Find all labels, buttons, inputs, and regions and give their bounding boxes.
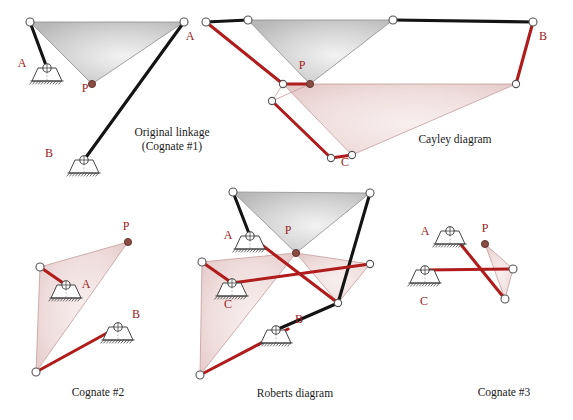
ground-hatch-line [84,173,87,176]
ground-hatch-line [53,81,56,84]
revolute-joint [501,295,509,303]
ground-hatch-line [87,173,90,176]
cognate-linkage-figure: APBABPCPABAPCBAPC Original linkage(Cogna… [0,0,573,420]
caption-line: Original linkage [134,126,209,139]
revolute-joint [334,299,341,306]
ground-hatch-line [72,173,75,176]
ground-hatch-line [44,81,47,84]
cognate-2-caption: Cognate #2 [72,386,125,399]
ground-hatch-line [433,244,436,247]
coupler-point [481,240,488,247]
caption-line: Cognate #2 [72,386,125,399]
roberts-diagram-caption: Roberts diagram [257,387,333,400]
ground-hatch-line [282,343,285,346]
ground-hatch-line [416,283,419,286]
ground-hatch-line [93,173,96,176]
ground-hatch-line [273,343,276,346]
ground-hatch-line [450,244,453,247]
ground-hatch-line [96,173,99,176]
ground-hatch-line [259,249,262,252]
cognate-2-label-P: P [123,219,130,233]
panel-cognate-3 [408,227,518,303]
revolute-joint [348,151,355,158]
ground-hatch-line [408,283,411,286]
coupler-point [306,80,313,87]
revolute-joint [327,154,334,161]
panel-cognate-2 [32,238,135,376]
cognate-2-label-B: B [132,307,140,321]
ground-hatch-line [247,249,250,252]
ground-hatch-line [30,81,33,84]
ground-hatch-line [124,340,127,343]
cayley-diagram-label-P: P [299,58,306,72]
ground-hatch-line [447,244,450,247]
ground-hatch-line [434,283,437,286]
ground-hatch-line [444,244,447,247]
black-link [276,303,338,330]
ground-hatch-line [81,173,84,176]
cognate-2-label-A: A [82,277,91,291]
roberts-diagram-label-C: C [224,297,232,311]
original-linkage-caption: Original linkage(Cognate #1) [134,126,209,153]
ground-pivot [433,227,467,248]
ground-hatch-line [438,244,441,247]
ground-hatch-line [241,249,244,252]
ground-hatch-line [101,340,104,343]
cayley-diagram-caption: Cayley diagram [418,133,491,146]
ground-hatch-line [425,283,428,286]
red-link [516,22,533,84]
caption-line: (Cognate #1) [142,140,203,153]
ground-hatch-line [288,343,291,346]
panel-roberts-diagram [196,188,374,379]
ground-hatch-line [238,249,241,252]
revolute-joint [180,18,188,26]
cayley-diagram-label-A: A [186,29,195,43]
ground-hatch-line [233,249,236,252]
revolute-joint [509,265,517,273]
revolute-joint [389,16,397,24]
ground-hatch-line [253,249,256,252]
roberts-diagram-label-A: A [224,228,233,242]
ground-hatch-line [67,173,70,176]
captions-group: Original linkage(Cognate #1)Cayley diagr… [72,126,531,400]
coupler-point [124,238,131,245]
ground-hatch-line [59,81,62,84]
ground-hatch-line [431,283,434,286]
ground-hatch-line [437,283,440,286]
coupler-point [292,249,299,256]
ground-pivot [233,232,267,253]
red-link [425,269,513,270]
original-linkage-label-A: A [18,56,27,70]
cayley-diagram-label-B: B [539,29,547,43]
ground-hatch-line [250,249,253,252]
ground-hatch-line [32,81,35,84]
ground-hatch-line [38,81,41,84]
ground-hatch-line [56,81,59,84]
revolute-joint [198,258,206,266]
ground-hatch-line [235,249,238,252]
revolute-joint [26,18,34,26]
ground-hatch-line [118,340,121,343]
ground-hatch-line [270,343,273,346]
cognate-3-label-A: A [421,224,430,238]
original-linkage-label-P: P [82,81,89,95]
black-link [206,20,248,22]
revolute-joint [244,16,252,24]
revolute-joint [512,80,519,87]
figure-canvas: APBABPCPABAPCBAPC Original linkage(Cogna… [0,0,573,420]
ground-hatch-line [115,340,118,343]
ground-hatch-line [262,249,265,252]
ground-hatch-line [279,343,282,346]
ground-hatch-line [456,244,459,247]
caption-line: Roberts diagram [257,387,333,400]
ground-hatch-line [267,343,270,346]
ground-pivot [67,156,101,177]
ground-hatch-line [109,340,112,343]
ground-hatch-line [78,173,81,176]
revolute-joint [366,189,374,197]
ground-hatch-line [285,343,288,346]
ground-hatch-line [419,283,422,286]
roberts-diagram-label-P: P [285,223,292,237]
cognate-3-label-P: P [482,221,489,235]
ground-hatch-line [413,283,416,286]
